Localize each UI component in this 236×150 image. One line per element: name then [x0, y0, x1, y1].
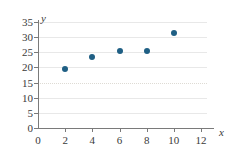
x-tick — [174, 128, 175, 132]
x-tick-label: 8 — [135, 135, 159, 146]
x-tick — [201, 128, 202, 132]
x-tick — [92, 128, 93, 132]
scatter-chart: 05101520253035 024681012 y x — [0, 0, 236, 150]
gridline — [38, 98, 207, 99]
data-point — [144, 48, 150, 54]
y-tick-label: 20 — [3, 62, 33, 73]
y-axis-line — [38, 20, 39, 129]
gridline — [38, 52, 207, 53]
x-tick — [147, 128, 148, 132]
y-tick — [34, 113, 38, 114]
y-axis-label: y — [41, 12, 46, 24]
x-tick — [65, 128, 66, 132]
y-tick — [34, 128, 38, 129]
x-tick-label: 4 — [80, 135, 104, 146]
x-axis-label: x — [219, 126, 224, 138]
y-tick-label: 5 — [3, 108, 33, 119]
y-tick-label: 0 — [3, 123, 33, 134]
y-tick — [34, 98, 38, 99]
gridline — [38, 113, 207, 114]
y-tick — [34, 67, 38, 68]
y-axis-tick-labels: 05101520253035 — [0, 0, 33, 150]
y-tick — [34, 83, 38, 84]
x-tick-label: 0 — [26, 135, 50, 146]
y-tick — [34, 37, 38, 38]
y-tick-label: 10 — [3, 93, 33, 104]
gridline — [38, 37, 207, 38]
x-tick-label: 6 — [108, 135, 132, 146]
gridline — [38, 22, 207, 23]
data-point — [171, 30, 177, 36]
data-point — [89, 54, 95, 60]
y-tick-label: 15 — [3, 78, 33, 89]
y-tick — [34, 22, 38, 23]
data-point — [62, 66, 68, 72]
y-tick-label: 25 — [3, 47, 33, 58]
x-tick-label: 12 — [189, 135, 213, 146]
x-tick-label: 10 — [162, 135, 186, 146]
y-tick — [34, 52, 38, 53]
y-tick-label: 35 — [3, 17, 33, 28]
data-point — [117, 48, 123, 54]
gridline — [38, 83, 207, 84]
x-tick-label: 2 — [53, 135, 77, 146]
x-tick — [120, 128, 121, 132]
y-tick-label: 30 — [3, 32, 33, 43]
